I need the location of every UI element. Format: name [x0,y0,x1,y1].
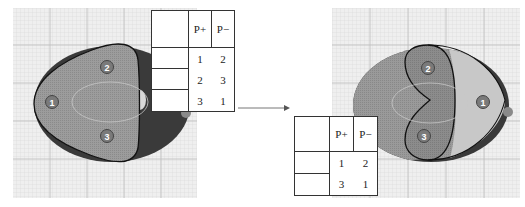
svg-text:3: 3 [104,132,109,142]
row-3-p-plus: 3 [189,90,211,111]
side-dot [503,107,513,117]
header-p-minus: P− [212,11,234,47]
svg-text:2: 2 [104,63,109,73]
row-2-p-minus: 3 [212,69,234,90]
header-p-plus: P+ [189,11,211,47]
marker-1: 1 [477,96,490,109]
marker-2: 2 [101,61,114,74]
header-p-plus: P+ [330,117,353,151]
row-1-p-plus: 1 [330,152,353,173]
marker-2: 2 [422,62,435,75]
svg-text:1: 1 [480,98,485,108]
row-1-p-minus: 2 [354,152,377,173]
row-2-p-plus: 2 [189,69,211,90]
left-permutation-table: P+ P− 1 2 2 3 3 1 [151,10,235,112]
svg-text:3: 3 [421,132,426,142]
row-3-p-minus: 1 [212,90,234,111]
marker-3: 3 [418,130,431,143]
svg-text:2: 2 [425,64,430,74]
row-2-p-minus: 1 [354,173,377,194]
row-1-p-minus: 2 [212,48,234,69]
right-permutation-table: P+ P− 1 2 3 1 [294,116,378,196]
marker-1: 1 [46,96,59,109]
svg-text:1: 1 [49,98,54,108]
header-p-minus: P− [354,117,377,151]
row-1-p-plus: 1 [189,48,211,69]
marker-3: 3 [101,130,114,143]
row-2-p-plus: 3 [330,173,353,194]
